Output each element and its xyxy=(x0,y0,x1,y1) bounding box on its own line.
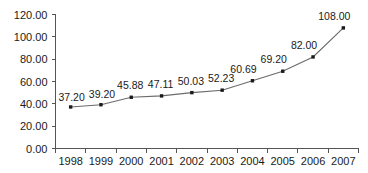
line-chart: 0.0020.0040.0060.0080.00100.00120.00 199… xyxy=(0,0,368,173)
data-point-marker xyxy=(311,55,314,58)
data-point-marker xyxy=(160,94,163,97)
data-point-marker xyxy=(99,103,102,106)
data-point-marker xyxy=(69,105,72,108)
x-tick-label: 2000 xyxy=(119,155,143,167)
x-tick-label: 2001 xyxy=(149,155,173,167)
data-point-label: 82.00 xyxy=(291,39,317,51)
x-tick-label: 2006 xyxy=(301,155,325,167)
data-point-label: 47.11 xyxy=(148,78,174,90)
y-tick-label: 60.00 xyxy=(20,76,48,88)
x-tick-label: 2002 xyxy=(180,155,204,167)
data-point-labels: 37.2039.2045.8847.1150.0352.2360.6969.20… xyxy=(59,10,351,103)
y-axis: 0.0020.0040.0060.0080.00100.00120.00 xyxy=(14,9,56,155)
x-axis: 1998199920002001200220032004200520062007 xyxy=(56,149,359,167)
data-point-label: 69.20 xyxy=(261,53,287,65)
y-tick-label: 80.00 xyxy=(20,53,48,65)
y-tick-label: 120.00 xyxy=(14,9,48,21)
data-point-marker xyxy=(130,96,133,99)
data-point-marker xyxy=(190,91,193,94)
y-tick-label: 40.00 xyxy=(20,98,48,110)
data-point-marker xyxy=(342,26,345,29)
x-tick-label: 2004 xyxy=(240,155,264,167)
data-point-marker xyxy=(220,88,223,91)
x-tick-label: 2003 xyxy=(210,155,234,167)
data-point-label: 39.20 xyxy=(89,88,115,100)
chart-canvas: 0.0020.0040.0060.0080.00100.00120.00 199… xyxy=(0,0,368,173)
data-point-label: 60.69 xyxy=(230,63,256,75)
y-tick-label: 100.00 xyxy=(14,31,48,43)
y-tick-label: 20.00 xyxy=(20,120,48,132)
data-point-label: 50.03 xyxy=(178,75,204,87)
x-tick-label: 2007 xyxy=(331,155,355,167)
data-point-marker xyxy=(281,70,284,73)
data-point-label: 108.00 xyxy=(318,10,350,22)
y-tick-label: 0.00 xyxy=(26,143,47,155)
x-tick-label: 1999 xyxy=(89,155,113,167)
x-tick-label: 2005 xyxy=(271,155,295,167)
data-point-label: 45.88 xyxy=(117,79,143,91)
data-point-label: 37.20 xyxy=(59,91,85,103)
x-tick-label: 1998 xyxy=(58,155,82,167)
data-point-marker xyxy=(251,79,254,82)
